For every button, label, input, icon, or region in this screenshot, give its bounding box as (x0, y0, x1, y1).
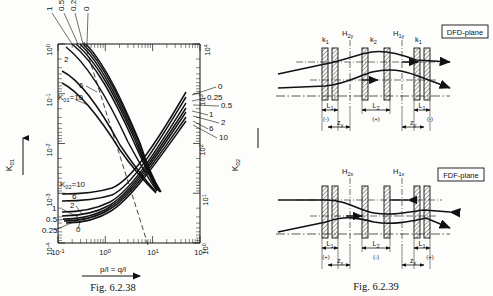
xtick-1e0: 100 (99, 248, 110, 258)
y-axis-ticks (58, 44, 65, 243)
label-h1y: H1y (393, 29, 404, 39)
xtick-1e-1: 10-1 (51, 248, 64, 258)
y2-axis-ticks (193, 44, 200, 243)
y2tick-1e4: 104 (203, 44, 213, 55)
ytick-1e0: 100 (45, 44, 55, 55)
y2tick-1e3: 103 (198, 94, 208, 105)
label-k1-left: k1 (322, 35, 329, 45)
right-label-1: 1 (209, 110, 214, 119)
right-curve-labels: 0 0.25 0.5 1 2 6 10 (207, 82, 233, 142)
right-axis-title-group: K02 (230, 158, 241, 171)
k02-curve-label: K02=10 (60, 180, 86, 190)
curve-label-6: 6 (79, 81, 84, 90)
sign-l2-fdf: (-) (373, 254, 379, 260)
y2tick-1e1: 101 (201, 194, 211, 205)
upper-left-labels: 2 6 (64, 55, 84, 90)
sign-l2: (+) (372, 116, 380, 122)
curve-label-6-lower: 6 (72, 192, 77, 201)
fdf-plane-badge: FDF-plane (438, 168, 484, 181)
sign-l1-left-fdf: (+) (322, 254, 330, 260)
chart-fig-6-2-38: 1 0.5 0.25 0 2 6 K01=10 K02=10 6 (0, 0, 250, 296)
fdf-plane-diagram: H2x H1x FDF-plane L1 (+) L2 (-) L1 ( (276, 167, 484, 269)
fdf-element-labels: H2x H1x (342, 167, 404, 177)
right-axis-title: K02 (230, 158, 241, 171)
right-label-0: 0 (218, 82, 223, 91)
dfd-plane-diagram: k1 H2y k2 H1y k1 DFD-plane L1 (-) (258, 25, 488, 148)
optical-fig-6-2-39: k1 H2y k2 H1y k1 DFD-plane L1 (-) (250, 0, 493, 296)
label-k2: k2 (370, 35, 377, 45)
xtick-1e1: 101 (147, 248, 158, 258)
figure-caption-6-2-38: Fig. 6.2.38 (90, 282, 136, 293)
sign-l1-left: (-) (323, 116, 329, 122)
x-axis-title-group: p/l = q/l (82, 265, 140, 276)
label-h1x: H1x (393, 167, 404, 177)
dfd-plane-label: DFD-plane (447, 28, 483, 37)
curve-label-2-lower: 2 (70, 201, 75, 210)
left-axis-title: K01 (4, 158, 15, 171)
dfd-plane-badge: DFD-plane (442, 25, 488, 38)
chart-svg: 1 0.5 0.25 0 2 6 K01=10 K02=10 6 (0, 0, 250, 296)
label-h2x: H2x (342, 167, 353, 177)
top-label-05: 0.5 (57, 0, 66, 11)
top-curve-labels: 1 0.5 0.25 0 (45, 0, 91, 11)
curve-label-2: 2 (64, 55, 69, 64)
top-label-0: 0 (82, 6, 91, 11)
ytick-1e-3: 10-3 (45, 193, 55, 206)
right-label-2: 2 (221, 118, 226, 127)
x-axis-title: p/l = q/l (100, 265, 126, 274)
fdf-plane-label: FDF-plane (443, 171, 478, 180)
label-h2y: H2y (342, 29, 353, 39)
figure-caption-6-2-39: Fig. 6.2.39 (353, 281, 399, 292)
left-axis-title-group: K01 (4, 138, 23, 175)
top-leader-lines (52, 13, 88, 44)
top-label-025: 0.25 (69, 0, 78, 11)
curve-label-05-lower: 0.5 (46, 215, 58, 224)
k01-curve-label: K01=10 (58, 93, 84, 103)
right-label-10: 10 (219, 133, 228, 142)
dfd-dimensions: L1 (-) L2 (+) L1 (-) zy zy (322, 100, 433, 131)
curve-label-025-lower: 0.25 (42, 226, 58, 235)
fdf-dimensions: L1 (+) L2 (-) L1 (+) zx zx (322, 238, 434, 269)
ytick-1e-1: 10-1 (45, 93, 55, 106)
label-k1-right: k1 (415, 35, 422, 45)
x-tick-labels: 10-1 100 101 102 (51, 248, 205, 258)
top-label-1: 1 (45, 6, 54, 11)
y2tick-1e2: 102 (198, 144, 208, 155)
right-label-6: 6 (209, 124, 214, 133)
figure-page: 1 0.5 0.25 0 2 6 K01=10 K02=10 6 (0, 0, 493, 296)
optical-svg: k1 H2y k2 H1y k1 DFD-plane L1 (-) (250, 0, 493, 296)
ytick-1e-2: 10-2 (45, 143, 55, 156)
dfd-element-labels: k1 H2y k2 H1y k1 (322, 29, 422, 45)
right-label-05: 0.5 (221, 101, 233, 110)
